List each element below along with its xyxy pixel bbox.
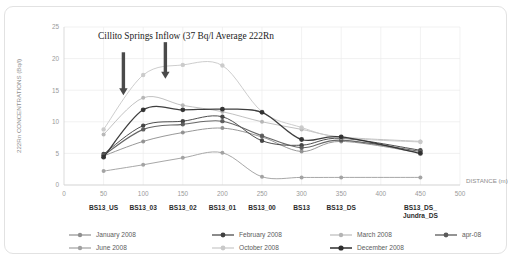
x-axis-title: DISTANCE (m)	[466, 177, 508, 184]
y-axis-tick-label: 15	[52, 87, 60, 94]
legend-label: February 2008	[239, 231, 282, 239]
station-label: BS13_DS_Jundra_DS	[403, 204, 438, 219]
legend-label: June 2008	[96, 244, 127, 251]
legend-item[interactable]: apr-08	[435, 231, 481, 239]
station-label-line: BS13_01	[209, 204, 237, 211]
x-axis-tick-label: 100	[138, 190, 149, 197]
data-point	[141, 73, 145, 77]
data-point	[101, 127, 105, 131]
y-axis-tick-label: 5	[55, 150, 59, 157]
x-axis-tick-label: 450	[415, 190, 426, 197]
data-point	[339, 135, 344, 140]
data-point	[220, 115, 224, 119]
data-point	[141, 163, 145, 167]
legend-swatch-marker	[78, 246, 82, 250]
data-point	[220, 107, 225, 112]
station-label: BS13_DS	[327, 204, 357, 211]
data-point	[141, 107, 146, 112]
legend-item[interactable]: June 2008	[69, 244, 127, 251]
legend-item[interactable]: January 2008	[69, 231, 136, 239]
y-axis-tick-label: 0	[55, 181, 59, 188]
x-axis-tick-label: 50	[100, 190, 108, 197]
station-label-line: BS13_00	[248, 204, 276, 211]
category-labels-group: BS13_USBS13_03BS13_02BS13_01BS13_00BS13B…	[89, 204, 438, 219]
data-point	[181, 131, 185, 135]
legend-group: January 2008February 2008March 2008apr-0…	[69, 231, 481, 251]
data-point	[181, 103, 185, 107]
station-label: BS13_03	[129, 204, 157, 211]
data-point	[102, 132, 106, 136]
legend-label: apr-08	[462, 231, 481, 239]
y-axis-tick-label: 10	[52, 118, 60, 125]
data-point	[299, 137, 304, 142]
data-point	[220, 63, 224, 67]
data-point	[339, 175, 343, 179]
station-label-line: Jundra_DS	[403, 212, 438, 219]
legend-label: October 2008	[239, 244, 279, 251]
station-label: BS13_00	[248, 204, 276, 211]
data-point	[141, 123, 145, 127]
x-axis-tick-label: 0	[62, 190, 66, 197]
chart-card: 0510152025050100150200250300350400450500…	[4, 6, 507, 254]
legend-item[interactable]: December 2008	[330, 244, 404, 251]
station-label-line: BS13	[293, 204, 310, 211]
y-axis-tick-label: 25	[52, 23, 60, 30]
data-point	[181, 63, 185, 67]
data-point	[101, 155, 106, 160]
chart-plot-area: 0510152025050100150200250300350400450500…	[5, 7, 508, 255]
station-label-line: BS13_DS_	[404, 204, 437, 211]
data-point	[181, 122, 185, 126]
data-point	[220, 151, 224, 155]
data-point	[260, 175, 264, 179]
legend-swatch-marker	[338, 245, 343, 250]
station-label-line: BS13_02	[169, 204, 197, 211]
data-point	[220, 119, 224, 123]
data-point	[260, 134, 264, 138]
x-axis-tick-label: 250	[257, 190, 268, 197]
x-axis-tick-label: 200	[217, 190, 228, 197]
legend-swatch-marker	[339, 233, 343, 237]
data-point	[260, 120, 264, 124]
x-axis-tick-label: 150	[177, 190, 188, 197]
data-point	[180, 107, 185, 112]
legend-swatch-marker	[444, 233, 449, 238]
inflow-annotation-group: Cillito Springs Inflow (37 Bq/l Average …	[98, 31, 274, 42]
data-point	[418, 175, 422, 179]
station-label-line: BS13_03	[129, 204, 157, 211]
legend-label: January 2008	[96, 231, 136, 239]
radon-concentration-line-chart: 0510152025050100150200250300350400450500…	[5, 7, 508, 255]
data-point	[181, 156, 185, 160]
legend-swatch-marker	[221, 233, 226, 238]
legend-item[interactable]: October 2008	[212, 244, 279, 251]
data-point	[300, 175, 304, 179]
station-label: BS13	[293, 204, 310, 211]
y-axis-tick-label: 20	[52, 55, 60, 62]
legend-item[interactable]: March 2008	[330, 231, 392, 238]
x-axis-tick-label: 300	[296, 190, 307, 197]
gridlines-group	[64, 27, 460, 185]
y-axis-title: 222Rn CONCENTRATIONS (Bq/l)	[15, 59, 22, 153]
station-label: BS13_US	[89, 204, 119, 211]
data-point	[418, 140, 422, 144]
station-label: BS13_02	[169, 204, 197, 211]
data-point	[141, 127, 145, 131]
x-axis-tick-label: 500	[455, 190, 466, 197]
legend-item[interactable]: February 2008	[212, 231, 282, 239]
x-axis-tick-label: 350	[336, 190, 347, 197]
data-point	[141, 139, 145, 143]
station-label-line: BS13_DS	[327, 204, 357, 211]
data-point	[299, 125, 303, 129]
data-point	[300, 150, 304, 154]
legend-swatch-marker	[221, 246, 226, 251]
inflow-annotation-text: Cillito Springs Inflow (37 Bq/l Average …	[98, 31, 274, 42]
data-point	[141, 96, 145, 100]
data-point	[102, 169, 106, 173]
data-point	[299, 146, 303, 150]
legend-label: December 2008	[357, 244, 404, 251]
x-axis-tick-label: 400	[375, 190, 386, 197]
data-point	[220, 126, 224, 130]
station-label-line: BS13_US	[89, 204, 119, 211]
station-label: BS13_01	[209, 204, 237, 211]
data-point	[260, 139, 264, 143]
legend-swatch-marker	[78, 233, 82, 237]
